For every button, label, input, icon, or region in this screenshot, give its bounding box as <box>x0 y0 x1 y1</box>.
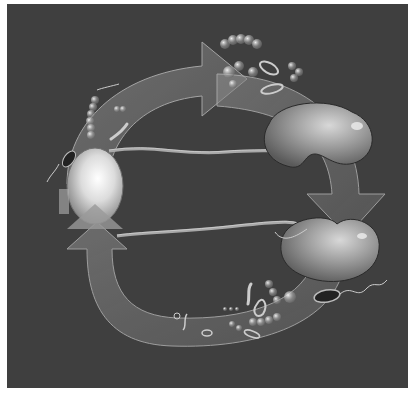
urinary-cycle-illustration <box>7 4 408 388</box>
kidney-lower <box>281 218 379 282</box>
kidney-upper <box>264 103 372 167</box>
illustration-panel <box>7 4 408 388</box>
